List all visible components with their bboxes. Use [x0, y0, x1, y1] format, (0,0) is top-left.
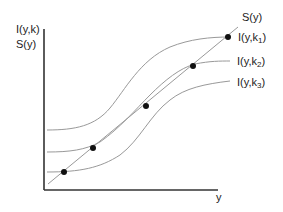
- saving-line-s: [48, 27, 238, 184]
- y-axis-label-saving: S(y): [16, 38, 36, 50]
- equilibrium-dot: [225, 34, 231, 40]
- equilibrium-dot: [190, 63, 196, 69]
- investment-curve-k2: [47, 61, 230, 152]
- investment-curve-k3: [47, 81, 230, 172]
- curve-label-k1: I(y,k1): [238, 31, 266, 47]
- saving-curve-label: S(y): [242, 11, 262, 23]
- curve-label-k2: I(y,k2): [237, 55, 265, 71]
- x-axis-label: y: [216, 191, 222, 203]
- equilibrium-dot: [61, 169, 67, 175]
- investment-curve-k1: [47, 37, 230, 130]
- curve-label-k3: I(y,k3): [237, 76, 265, 92]
- y-axis-label-investment: I(y,k): [16, 23, 40, 35]
- equilibrium-dot: [143, 103, 149, 109]
- equilibrium-dot: [90, 145, 96, 151]
